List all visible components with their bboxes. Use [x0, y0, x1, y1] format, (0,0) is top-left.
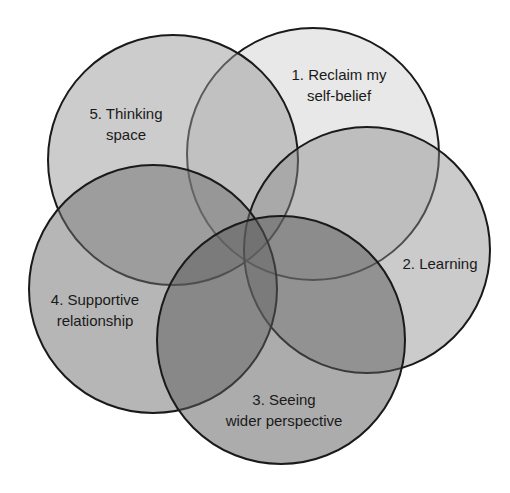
label-c2-line1: 2. Learning: [402, 255, 477, 272]
label-c3-line2: wider perspective: [225, 412, 343, 429]
label-c4-line2: relationship: [57, 312, 134, 329]
label-c1-line2: self-belief: [307, 87, 372, 104]
venn-diagram: 1. Reclaim my self-belief 5. Thinking sp…: [0, 0, 510, 493]
label-c5-line2: space: [106, 126, 146, 143]
label-c1-line1: 1. Reclaim my: [291, 66, 387, 83]
label-c4-line1: 4. Supportive: [51, 291, 139, 308]
label-c3-line1: 3. Seeing: [252, 391, 315, 408]
label-c5-line1: 5. Thinking: [89, 105, 162, 122]
